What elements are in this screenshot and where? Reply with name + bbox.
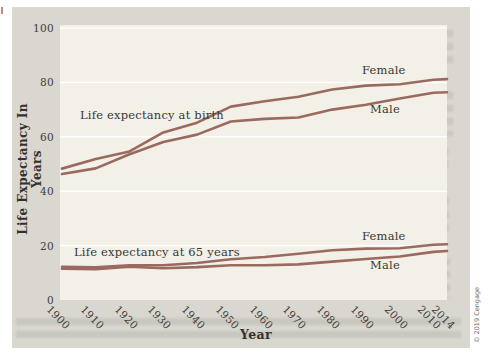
annotation-life-expectancy-at-65: Life expectancy at 65 years [74, 245, 240, 259]
x-axis-title: Year [240, 327, 272, 342]
scan-artifact-mark [1, 7, 3, 14]
series-label-female-at-65: Female [362, 229, 406, 243]
series-label-male-at-birth: Male [370, 102, 400, 116]
series-label-female-at-birth: Female [362, 63, 406, 77]
figure-canvas: 020406080100 190019101920193019401950196… [0, 0, 489, 360]
annotation-life-expectancy-at-birth: Life expectancy at birth [80, 108, 224, 122]
series-label-male-at-65: Male [370, 258, 400, 272]
y-tick-label-0: 0 [26, 294, 54, 306]
y-tick-label-100: 100 [26, 22, 54, 34]
copyright-credit: © 2019 Cengage [473, 275, 481, 355]
y-tick-label-80: 80 [26, 76, 54, 88]
y-axis-title: Life Expectancy In Years [16, 90, 44, 248]
